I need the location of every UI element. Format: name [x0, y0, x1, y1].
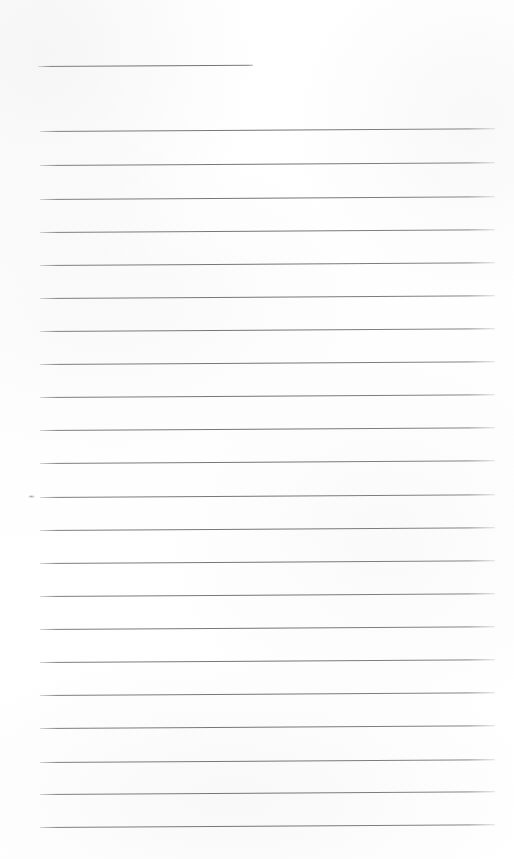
- rule-line: [40, 527, 495, 531]
- rule-line: [40, 262, 495, 266]
- rule-line: [40, 361, 495, 365]
- rule-line: [40, 824, 495, 828]
- rule-line: [40, 196, 495, 200]
- rule-line: [40, 427, 495, 431]
- rule-line: [40, 394, 495, 398]
- rule-line: [40, 560, 495, 564]
- rule-line: [40, 162, 495, 166]
- rule-line: [40, 659, 495, 663]
- rule-line: [40, 328, 495, 332]
- scanned-page: [0, 0, 514, 859]
- rule-line: [40, 460, 495, 464]
- rule-line: [40, 791, 495, 795]
- rule-line: [40, 725, 495, 729]
- rule-line: [40, 692, 495, 696]
- rule-line: [40, 759, 495, 763]
- rule-line: [40, 626, 495, 630]
- rule-line: [40, 494, 495, 498]
- rule-line: [38, 65, 253, 67]
- rule-line: [40, 229, 495, 233]
- rule-line: [40, 593, 495, 597]
- scan-speck: [28, 495, 35, 498]
- rule-line: [40, 295, 495, 299]
- rule-line: [40, 128, 495, 132]
